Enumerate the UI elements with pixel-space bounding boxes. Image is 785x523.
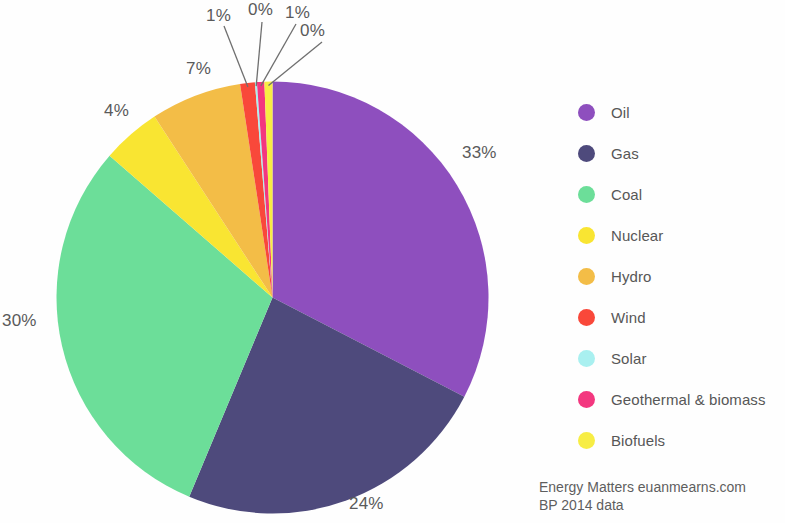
percent-label-solar: 0% <box>248 0 273 20</box>
legend-item-label: Biofuels <box>611 432 665 449</box>
legend-item-geothermal-biomass[interactable]: Geothermal & biomass <box>578 379 783 420</box>
leader-line-biofuels <box>269 42 323 86</box>
legend-item-label: Wind <box>611 309 646 326</box>
attribution-text: Energy Matters euanmearns.com BP 2014 da… <box>539 478 746 514</box>
percent-label-nuclear: 4% <box>104 101 129 121</box>
legend-swatch-icon <box>578 227 595 244</box>
chart-legend: OilGasCoalNuclearHydroWindSolarGeotherma… <box>578 92 783 461</box>
legend-swatch-icon <box>578 391 595 408</box>
legend-item-hydro[interactable]: Hydro <box>578 256 783 297</box>
legend-item-label: Oil <box>611 104 630 121</box>
pie-slices-group <box>56 81 488 513</box>
legend-swatch-icon <box>578 432 595 449</box>
percent-label-hydro: 7% <box>186 59 211 79</box>
legend-item-oil[interactable]: Oil <box>578 92 783 133</box>
legend-item-label: Coal <box>611 186 642 203</box>
percent-label-oil: 33% <box>462 143 497 163</box>
leader-line-wind <box>224 26 248 87</box>
percent-label-wind: 1% <box>206 6 231 26</box>
legend-swatch-icon <box>578 268 595 285</box>
legend-item-solar[interactable]: Solar <box>578 338 783 379</box>
legend-item-label: Nuclear <box>611 227 663 244</box>
legend-item-label: Solar <box>611 350 647 367</box>
legend-swatch-icon <box>578 350 595 367</box>
legend-item-label: Hydro <box>611 268 652 285</box>
legend-item-gas[interactable]: Gas <box>578 133 783 174</box>
leader-line-solar <box>256 22 262 86</box>
legend-item-label: Geothermal & biomass <box>611 391 766 408</box>
legend-swatch-icon <box>578 186 595 203</box>
percent-label-geothermal: 1% <box>285 3 310 23</box>
legend-item-biofuels[interactable]: Biofuels <box>578 420 783 461</box>
attribution-line-2: BP 2014 data <box>539 496 746 514</box>
percent-label-gas: 24% <box>349 494 384 514</box>
legend-item-nuclear[interactable]: Nuclear <box>578 215 783 256</box>
legend-item-coal[interactable]: Coal <box>578 174 783 215</box>
legend-swatch-icon <box>578 145 595 162</box>
legend-swatch-icon <box>578 104 595 121</box>
leader-line-geothermal-biomass <box>261 24 296 86</box>
legend-item-wind[interactable]: Wind <box>578 297 783 338</box>
pie-chart-figure: 33%24%30%4%7%1%0%1%0% OilGasCoalNuclearH… <box>0 0 785 523</box>
legend-item-label: Gas <box>611 145 639 162</box>
percent-label-biofuels: 0% <box>300 21 325 41</box>
legend-swatch-icon <box>578 309 595 326</box>
percent-label-coal: 30% <box>2 311 37 331</box>
attribution-line-1: Energy Matters euanmearns.com <box>539 478 746 496</box>
